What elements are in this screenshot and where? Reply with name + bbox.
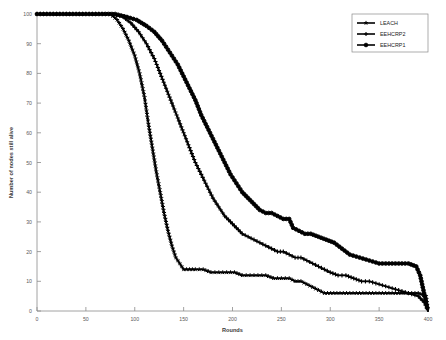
x-axis-title: Rounds	[222, 327, 243, 333]
marker-circle	[364, 43, 368, 47]
x-tick-label: 200	[228, 316, 237, 322]
y-tick-label: 20	[26, 249, 32, 255]
x-tick-label: 350	[375, 316, 384, 322]
x-tick-label: 0	[36, 316, 39, 322]
x-tick-label: 300	[326, 316, 335, 322]
y-tick-label: 60	[26, 130, 32, 136]
y-axis-title: Number of nodes still alive	[8, 127, 14, 198]
legend-label: LEACH	[380, 20, 398, 26]
chart-legend[interactable]: LEACHEEHCRP2EEHCRP1	[352, 14, 428, 52]
y-tick-label: 100	[23, 11, 32, 17]
chart-figure: 0501001502002503003504000102030405060708…	[0, 0, 446, 340]
y-tick-label: 50	[26, 160, 32, 166]
x-tick-label: 250	[277, 316, 286, 322]
legend-label: EEHCRP2	[380, 31, 405, 37]
y-tick-label: 10	[26, 278, 32, 284]
y-tick-label: 90	[26, 41, 32, 47]
y-tick-label: 80	[26, 70, 32, 76]
legend-label: EEHCRP1	[380, 42, 405, 48]
y-tick-label: 70	[26, 100, 32, 106]
y-tick-label: 0	[29, 308, 32, 314]
x-tick-label: 150	[179, 316, 188, 322]
x-tick-label: 50	[83, 316, 89, 322]
x-tick-label: 100	[130, 316, 139, 322]
x-tick-label: 400	[424, 316, 433, 322]
y-tick-label: 30	[26, 219, 32, 225]
y-tick-label: 40	[26, 189, 32, 195]
marker-circle	[425, 306, 429, 310]
